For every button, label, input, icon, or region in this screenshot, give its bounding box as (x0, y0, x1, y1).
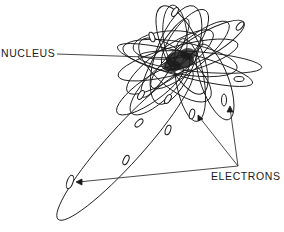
atom-diagram (0, 0, 284, 232)
electrons-label: ELECTRONS (211, 170, 281, 182)
nucleus-label: NUCLEUS (1, 47, 55, 59)
electrons (65, 6, 245, 189)
nucleus (163, 48, 196, 72)
